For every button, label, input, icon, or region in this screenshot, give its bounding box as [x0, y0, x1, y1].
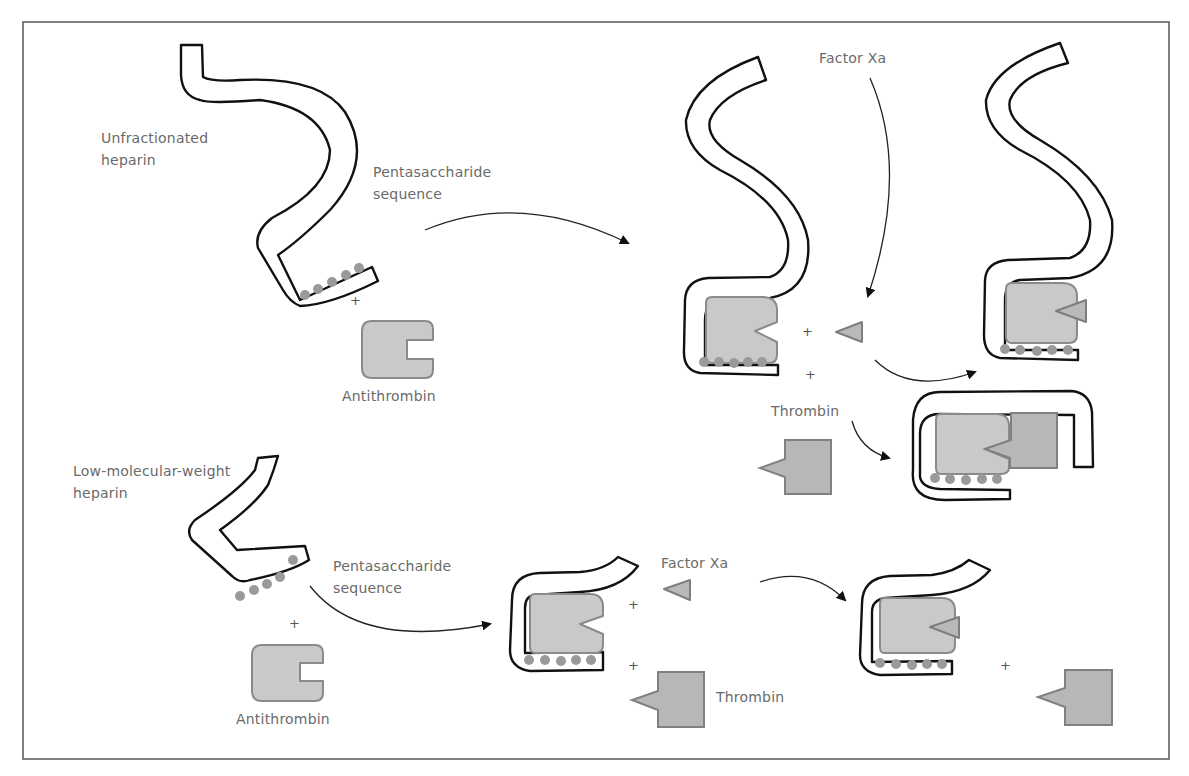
antithrombin-label-top: Antithrombin — [342, 385, 436, 407]
thrombin-label-top: Thrombin — [771, 400, 839, 422]
heparin-antithrombin-thrombin-complex — [913, 391, 1093, 500]
factor-xa-shape — [836, 322, 862, 342]
unfractionated-heparin-label: Unfractionated heparin — [101, 127, 208, 171]
antithrombin-shape — [362, 321, 433, 378]
factor-xa-label-top: Factor Xa — [819, 47, 886, 69]
thrombin-label-bottom: Thrombin — [716, 686, 784, 708]
thrombin-shape — [760, 440, 831, 494]
arrow-xa-inactivation — [875, 360, 975, 381]
pentasaccharide-label-top: Pentasaccharide sequence — [373, 161, 491, 205]
factor-xa-label-bottom: Factor Xa — [661, 552, 728, 574]
heparin-antithrombin-complex-top — [684, 57, 808, 375]
factor-xa-shape-lmwh — [664, 580, 690, 600]
antithrombin-shape-lmwh — [252, 645, 323, 701]
heparin-antithrombin-factor-xa-complex — [984, 43, 1112, 360]
thrombin-shape-lmwh — [632, 672, 704, 727]
plus-sign-top-2: + — [802, 325, 813, 338]
pentasaccharide-label-bottom-line2: sequence — [333, 577, 451, 599]
pentasaccharide-label-bottom-line1: Pentasaccharide — [333, 555, 451, 577]
pentasaccharide-label-top-line2: sequence — [373, 183, 491, 205]
unfractionated-heparin-chain — [181, 45, 378, 306]
plus-sign-top-1: + — [350, 294, 361, 307]
lmwh-label-line2: heparin — [73, 482, 230, 504]
plus-sign-top-3: + — [805, 368, 816, 381]
pentasaccharide-label-bottom: Pentasaccharide sequence — [333, 555, 451, 599]
unfractionated-heparin-label-line2: heparin — [101, 149, 208, 171]
lmwh-label: Low-molecular-weight heparin — [73, 460, 230, 504]
lmwh-antithrombin-factor-xa-complex — [860, 560, 990, 675]
plus-sign-bottom-3: + — [628, 659, 639, 672]
pentasaccharide-label-top-line1: Pentasaccharide — [373, 161, 491, 183]
lmwh-antithrombin-complex — [510, 557, 638, 671]
arrow-binding-top — [425, 213, 628, 243]
plus-sign-bottom-1: + — [289, 617, 300, 630]
unfractionated-heparin-label-line1: Unfractionated — [101, 127, 208, 149]
thrombin-shape-unbound — [1038, 670, 1112, 725]
arrow-factor-xa — [868, 78, 890, 296]
plus-sign-bottom-2: + — [628, 598, 639, 611]
plus-sign-bottom-4: + — [1000, 659, 1011, 672]
antithrombin-label-bottom: Antithrombin — [236, 708, 330, 730]
arrow-thrombin-binding — [852, 421, 889, 458]
arrow-xa-inactivation-lmwh — [760, 576, 845, 600]
lmwh-label-line1: Low-molecular-weight — [73, 460, 230, 482]
